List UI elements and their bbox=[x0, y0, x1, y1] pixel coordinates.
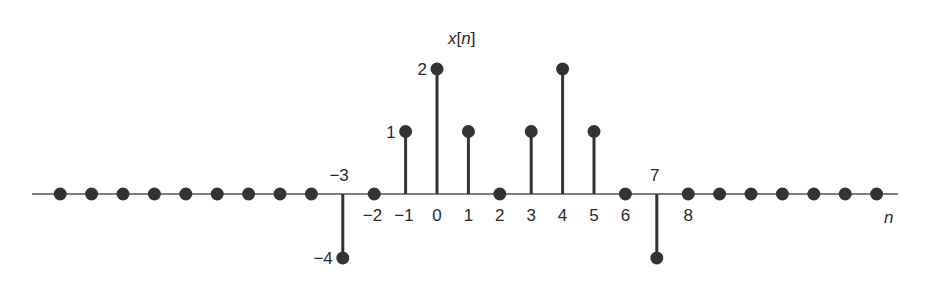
stem-marker bbox=[556, 63, 569, 76]
stem-marker bbox=[713, 188, 726, 201]
value-label: 1 bbox=[386, 123, 395, 142]
value-label: −4 bbox=[313, 249, 332, 268]
tick-label: −1 bbox=[394, 206, 413, 225]
stem-marker bbox=[242, 188, 255, 201]
stem-marker bbox=[745, 188, 758, 201]
stem-marker bbox=[148, 188, 161, 201]
stem-marker bbox=[839, 188, 852, 201]
tick-label: 4 bbox=[558, 206, 567, 225]
stem-marker bbox=[619, 188, 632, 201]
stem-marker bbox=[211, 188, 224, 201]
stem-marker bbox=[807, 188, 820, 201]
stem-marker bbox=[525, 125, 538, 138]
stem-marker bbox=[85, 188, 98, 201]
stem-marker bbox=[462, 125, 475, 138]
tick-label: 1 bbox=[464, 206, 473, 225]
stem-plot: −3−2−101234567812−4 x[n] n bbox=[0, 0, 929, 285]
tick-label: −2 bbox=[363, 206, 382, 225]
stem-marker bbox=[54, 188, 67, 201]
stem-marker bbox=[682, 188, 695, 201]
stems bbox=[54, 63, 883, 265]
stem-marker bbox=[305, 188, 318, 201]
stem-marker bbox=[399, 125, 412, 138]
x-axis-label: n bbox=[884, 208, 893, 227]
stem-marker bbox=[368, 188, 381, 201]
stem-marker bbox=[870, 188, 883, 201]
stem-marker bbox=[336, 252, 349, 265]
stem-marker bbox=[650, 252, 663, 265]
tick-label: 0 bbox=[432, 206, 441, 225]
stem-marker bbox=[179, 188, 192, 201]
tick-label: 6 bbox=[621, 206, 630, 225]
stem-marker bbox=[588, 125, 601, 138]
tick-label: 8 bbox=[683, 206, 692, 225]
tick-label: 3 bbox=[526, 206, 535, 225]
stem-marker bbox=[776, 188, 789, 201]
chart-title: x[n] bbox=[447, 29, 475, 48]
tick-label: 5 bbox=[589, 206, 598, 225]
value-label: 2 bbox=[418, 60, 427, 79]
tick-label: 7 bbox=[650, 166, 659, 185]
stem-marker bbox=[117, 188, 130, 201]
stem-marker bbox=[493, 188, 506, 201]
stem-marker bbox=[274, 188, 287, 201]
stem-marker bbox=[431, 63, 444, 76]
tick-label: −3 bbox=[329, 166, 348, 185]
tick-label: 2 bbox=[495, 206, 504, 225]
labels: −3−2−101234567812−4 bbox=[313, 60, 693, 268]
